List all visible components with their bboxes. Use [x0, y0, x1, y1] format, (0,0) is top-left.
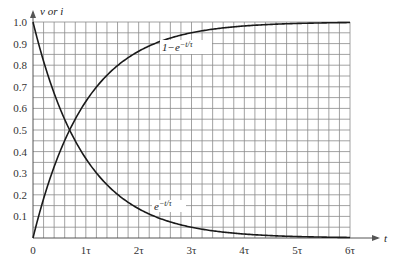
- y-tick-label: 0.9: [13, 38, 27, 50]
- x-axis-arrow-icon: [372, 235, 380, 241]
- x-tick-label: 1τ: [81, 244, 92, 256]
- y-tick-label: 0.5: [13, 124, 27, 136]
- y-tick-label: 0.3: [13, 167, 27, 179]
- x-axis-label: t: [384, 232, 388, 244]
- x-tick-label: 0: [30, 244, 36, 256]
- x-tick-label: 6τ: [345, 244, 356, 256]
- x-tick-label: 2τ: [134, 244, 145, 256]
- y-tick-label: 0.4: [13, 146, 27, 158]
- y-tick-label: 0.8: [13, 59, 27, 71]
- x-tick-label: 4τ: [239, 244, 250, 256]
- rc-time-constant-chart: 0.10.20.30.40.50.60.70.80.91.001τ2τ3τ4τ5…: [0, 0, 401, 266]
- y-axis-arrow-icon: [30, 10, 36, 18]
- y-tick-label: 0.2: [13, 189, 27, 201]
- grid: [33, 22, 350, 238]
- y-tick-label: 0.6: [13, 102, 27, 114]
- x-tick-label: 5τ: [292, 244, 303, 256]
- y-axis-label: v or i: [40, 5, 63, 17]
- x-tick-label: 3τ: [187, 244, 198, 256]
- y-tick-label: 0.7: [13, 81, 27, 93]
- y-tick-label: 0.1: [13, 210, 27, 222]
- y-tick-label: 1.0: [13, 16, 27, 28]
